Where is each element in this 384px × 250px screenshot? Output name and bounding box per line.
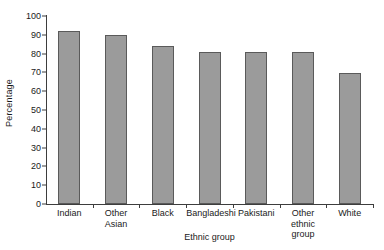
y-axis-tick-mark	[42, 72, 46, 73]
x-axis-category-label: Pakistani	[233, 208, 280, 219]
y-axis-tick-mark	[42, 34, 46, 35]
bar-chart: Percentage 0102030405060708090100 Ethnic…	[0, 0, 384, 250]
x-axis-category-label: Other ethnic group	[280, 208, 327, 240]
y-axis-tick-mark	[42, 185, 46, 186]
y-axis-tick-mark	[42, 16, 46, 17]
bar	[199, 52, 221, 204]
x-axis-category-label: Indian	[46, 208, 93, 219]
bar	[105, 35, 127, 204]
bar	[58, 31, 80, 204]
x-axis-category-label: Bangladeshi	[186, 208, 233, 219]
x-axis-tick-mark	[373, 204, 374, 208]
y-axis-tick-mark	[42, 91, 46, 92]
x-axis-category-label: White	[326, 208, 373, 219]
y-axis-tick-mark	[42, 53, 46, 54]
plot-area: 0102030405060708090100	[46, 16, 373, 204]
y-axis-tick-mark	[42, 166, 46, 167]
bar	[152, 46, 174, 204]
y-axis-title: Percentage	[0, 0, 18, 206]
x-axis-category-label: Other Asian	[93, 208, 140, 229]
bar	[292, 52, 314, 204]
y-axis-tick-mark	[42, 147, 46, 148]
y-axis-tick-mark	[42, 204, 46, 205]
y-axis-title-label: Percentage	[4, 79, 14, 127]
y-axis-tick-mark	[42, 110, 46, 111]
bar	[245, 52, 267, 204]
x-axis-line	[46, 204, 374, 205]
y-axis-tick-mark	[42, 128, 46, 129]
x-axis-category-label: Black	[139, 208, 186, 219]
bar	[339, 73, 361, 204]
